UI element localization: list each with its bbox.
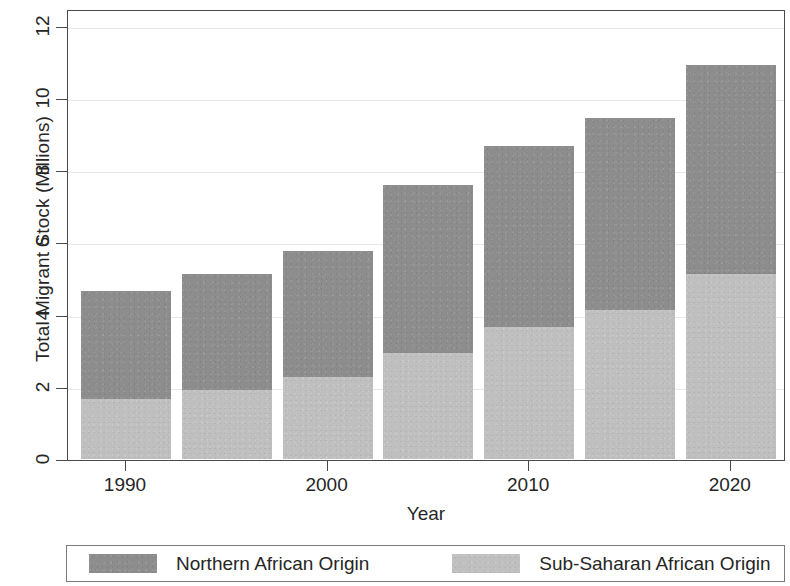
bar-segment-sub-saharan-african-origin [383,353,473,459]
bar-stack-1995 [182,274,272,459]
bar-segment-sub-saharan-african-origin [182,390,272,459]
bar-segment-northern-african-origin [686,65,776,274]
bar-stack-2020 [686,65,776,459]
gridline [68,172,784,173]
y-axis-tick-mark [56,99,67,100]
y-axis-tick-mark [56,171,67,172]
y-axis-tick-mark [56,27,67,28]
legend-dark-gray-swatch [89,554,157,573]
legend-label: Sub-Saharan African Origin [539,553,770,575]
y-axis-tick-mark [56,243,67,244]
chart-legend: Northern African OriginSub-Saharan Afric… [66,545,785,582]
x-axis-title: Year [67,503,785,525]
gridline [68,100,784,101]
x-axis-tick-mark [528,461,529,471]
y-axis-tick-labels: 024681012 [28,0,58,586]
y-axis-tick-label: 6 [32,227,54,257]
stacked-bar-chart-figure: Total Migrant Stock (Millions) 024681012… [0,0,790,586]
legend-label: Northern African Origin [176,553,369,575]
bar-segment-northern-african-origin [484,146,574,327]
legend-entry: Sub-Saharan African Origin [452,546,770,581]
x-axis-tick-mark [730,461,731,471]
bar-stack-2000 [283,251,373,459]
y-axis-tick-label: 4 [32,300,54,330]
bar-segment-sub-saharan-african-origin [283,377,373,459]
legend-entry: Northern African Origin [89,546,369,581]
x-axis-tick-label: 2020 [685,474,775,496]
bar-stack-2010 [484,146,574,459]
bar-segment-sub-saharan-african-origin [686,274,776,459]
bar-segment-northern-african-origin [585,118,675,310]
bar-stack-1990 [81,291,171,459]
bar-segment-northern-african-origin [383,185,473,353]
bar-segment-northern-african-origin [283,251,373,377]
x-axis-tick-label: 2000 [282,474,372,496]
bar-segment-sub-saharan-african-origin [484,327,574,459]
y-axis-tick-label: 12 [32,11,54,41]
x-axis-tick-label: 2010 [483,474,573,496]
y-axis-tick-label: 2 [32,372,54,402]
y-axis-tick-label: 10 [32,83,54,113]
y-axis-tick-label: 8 [32,155,54,185]
bar-segment-northern-african-origin [182,274,272,390]
bar-segment-northern-african-origin [81,291,171,399]
plot-area [67,10,785,461]
y-axis-tick-label: 0 [32,444,54,474]
y-axis-tick-mark [56,316,67,317]
bar-stack-2015 [585,118,675,459]
x-axis-tick-mark [125,461,126,471]
bar-segment-sub-saharan-african-origin [585,310,675,459]
bar-stack-2005 [383,185,473,459]
bar-segment-sub-saharan-african-origin [81,399,171,459]
y-axis-tick-mark [56,460,67,461]
x-axis-tick-label: 1990 [80,474,170,496]
gridline [68,28,784,29]
legend-light-gray-swatch [452,554,520,573]
x-axis-tick-mark [327,461,328,471]
y-axis-tick-mark [56,388,67,389]
